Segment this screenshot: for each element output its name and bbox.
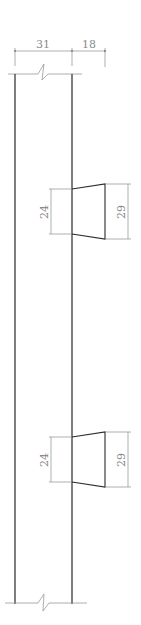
corbel-upper: 24 29 xyxy=(38,184,131,239)
break-line-bottom xyxy=(5,594,87,611)
dim-tick-left xyxy=(14,50,16,52)
dim-tick-right xyxy=(104,50,106,52)
corbel-lower-outline xyxy=(72,432,105,487)
dim-label-projection: 18 xyxy=(82,38,96,51)
corbel-lower-label-outer: 29 xyxy=(115,453,128,467)
corbel-lower-label-inner: 24 xyxy=(38,453,51,467)
corbel-upper-label-outer: 29 xyxy=(115,205,128,219)
dim-tick-middle xyxy=(71,50,73,52)
corbel-lower: 24 29 xyxy=(38,432,131,487)
corbel-upper-outline xyxy=(72,184,105,239)
dim-label-wall-thickness: 31 xyxy=(36,38,50,51)
top-dimension: 31 18 xyxy=(14,38,106,67)
corbel-upper-label-inner: 24 xyxy=(38,205,51,219)
section-drawing: 31 18 24 29 24 29 xyxy=(0,0,141,625)
break-line-top xyxy=(8,64,82,80)
